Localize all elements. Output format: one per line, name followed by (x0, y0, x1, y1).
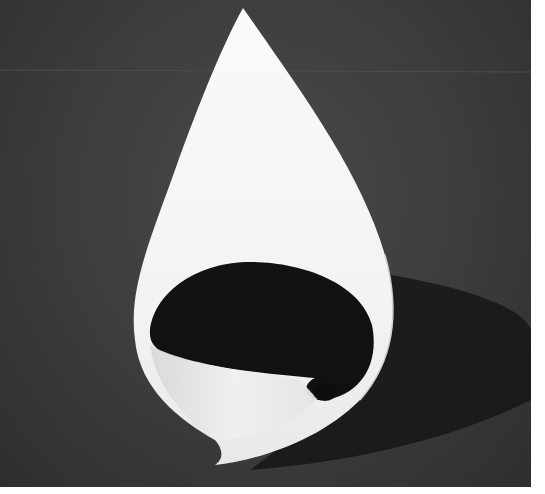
photograph (0, 0, 531, 487)
paper-sculpture (0, 0, 531, 487)
curl-tip-shadow (313, 383, 337, 401)
